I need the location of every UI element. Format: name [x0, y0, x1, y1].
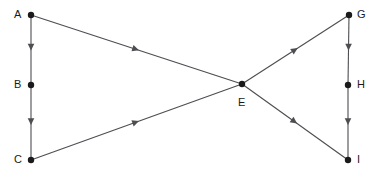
node-a[interactable]: [28, 12, 34, 18]
arrowhead-a-e: [131, 45, 140, 53]
arrowhead-layer: [28, 44, 352, 127]
node-label-a: A: [14, 9, 21, 20]
arrowhead-e-i: [290, 117, 299, 126]
diagram-canvas: ABCEGHI: [0, 0, 381, 177]
node-b[interactable]: [28, 82, 34, 88]
node-i[interactable]: [345, 157, 351, 163]
node-e[interactable]: [239, 81, 245, 87]
node-label-g: G: [357, 9, 366, 20]
node-h[interactable]: [345, 82, 351, 88]
arrowhead-a-b: [28, 44, 35, 51]
arrowhead-h-i: [345, 118, 352, 125]
node-label-i: I: [357, 154, 360, 165]
arrowhead-e-g: [290, 45, 299, 54]
node-label-c: C: [14, 154, 22, 165]
arrowhead-g-h: [345, 44, 352, 51]
node-c[interactable]: [28, 157, 34, 163]
node-label-b: B: [14, 79, 21, 90]
arrowhead-b-c: [28, 118, 35, 125]
arrowhead-c-e: [131, 118, 140, 127]
node-g[interactable]: [346, 12, 352, 18]
edge-layer: [31, 15, 349, 160]
node-layer: [28, 12, 352, 163]
graph-svg: [0, 0, 381, 177]
node-label-h: H: [357, 79, 365, 90]
node-label-e: E: [238, 97, 245, 108]
